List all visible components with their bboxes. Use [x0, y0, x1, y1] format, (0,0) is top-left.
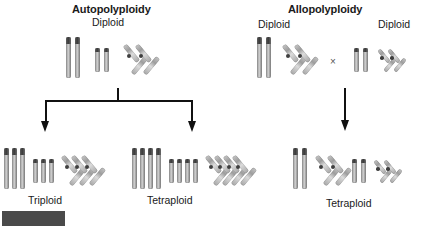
chromosome-rod-short — [95, 48, 100, 72]
chromosome-rod-short — [49, 159, 54, 183]
bracket-bar — [45, 100, 193, 102]
bracket-left-shaft — [45, 100, 47, 121]
allopolyploidy-tetraploid-karyotype — [290, 148, 420, 192]
chromosome-rod-short — [185, 159, 190, 183]
chromosome-rod-short — [193, 159, 198, 183]
chromosome-rod-long — [266, 37, 271, 78]
chromosome-rod-long — [20, 148, 25, 189]
autopolyploidy-parent-karyotype — [62, 36, 182, 80]
chromosome-rod-short — [169, 159, 174, 183]
allopolyploidy-arrow-shaft — [344, 88, 346, 120]
chromosome-rod-long — [156, 148, 161, 189]
autopolyploidy-tetraploid-label: Tetraploid — [147, 195, 193, 206]
chromosome-rod-short — [352, 159, 357, 183]
chromosome-rod-long — [4, 148, 9, 189]
bracket-right-shaft — [191, 100, 193, 121]
chromosome-rod-long — [257, 37, 262, 78]
chromosome-rod-short — [361, 159, 366, 183]
allopolyploidy-parent-right-label: Diploid — [378, 19, 410, 30]
chromosome-rod-short — [363, 48, 368, 72]
chromosome-rod-short — [41, 159, 46, 183]
allopolyploidy-tetraploid-label: Tetraploid — [326, 198, 372, 209]
triploid-karyotype — [2, 148, 112, 192]
chromosome-rod-short — [354, 48, 359, 72]
allopolyploidy-parent-b-karyotype — [350, 36, 425, 80]
autopolyploidy-parent-label: Diploid — [92, 17, 124, 28]
chromosome-rod-short — [104, 48, 109, 72]
allopolyploidy-title: Allopolyploidy — [288, 4, 362, 15]
chromosome-rod-long — [293, 148, 298, 189]
cross-symbol: × — [330, 57, 336, 67]
chromosome-chevron-pair — [122, 44, 162, 76]
chromosome-chevron-pair — [281, 44, 323, 76]
chromosome-rod-long — [66, 37, 71, 78]
autopolyploidy-title: Autopolyploidy — [72, 4, 151, 15]
allopolyploidy-parent-a-karyotype — [253, 36, 328, 80]
redaction-block — [2, 211, 65, 226]
chromosome-chevron-triple — [60, 155, 110, 187]
arrow-to-triploid — [41, 121, 49, 132]
chromosome-rod-long — [75, 37, 80, 78]
chromosome-chevron-pair-small — [376, 49, 416, 75]
chromosome-chevron-quad — [204, 155, 260, 187]
chromosome-rod-long — [132, 148, 137, 189]
chromosome-rod-long — [140, 148, 145, 189]
chromosome-chevron-pair — [314, 155, 356, 187]
chromosome-rod-long — [12, 148, 17, 189]
chromosome-rod-short — [33, 159, 38, 183]
triploid-label: Triploid — [28, 195, 62, 206]
diagram-canvas: Autopolyploidy Diploid — [0, 0, 425, 226]
chromosome-rod-long — [302, 148, 307, 189]
autopolyploidy-tetraploid-karyotype — [130, 148, 250, 192]
chromosome-chevron-pair-small — [372, 160, 412, 186]
chromosome-rod-long — [148, 148, 153, 189]
chromosome-rod-short — [177, 159, 182, 183]
allopolyploidy-parent-left-label: Diploid — [258, 19, 290, 30]
allopolyploidy-arrow-head — [341, 120, 349, 131]
arrow-to-tetraploid — [188, 121, 196, 132]
